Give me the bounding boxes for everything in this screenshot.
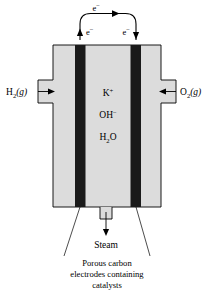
- diagram-canvas: e− e− e− H2(g): [0, 0, 214, 295]
- caption-leader-right: [136, 207, 150, 256]
- hydrogen-inlet-label: H2(g): [6, 87, 27, 99]
- electron-flow-right-arrow-icon: [133, 32, 139, 40]
- fuel-cell-diagram: e− e− e− H2(g): [0, 0, 214, 295]
- cell-body: [38, 45, 176, 207]
- cell-outline: [38, 45, 176, 207]
- caption-leader-left: [64, 207, 80, 256]
- electron-flow-top-arrow-icon: [112, 10, 120, 17]
- electron-label-top: e−: [93, 2, 101, 13]
- external-circuit: e− e− e−: [77, 2, 139, 40]
- electron-flow-left-arrow-icon: [77, 29, 83, 37]
- anode-electrode: [75, 45, 86, 207]
- caption-line-3: catalysts: [92, 280, 122, 290]
- oxygen-inlet-label: O2(g): [180, 87, 201, 99]
- steam-label: Steam: [94, 240, 118, 250]
- electron-label-right: e−: [123, 26, 131, 37]
- cathode-electrode: [131, 45, 142, 207]
- electron-label-left: e−: [86, 26, 94, 37]
- caption-line-1: Porous carbon: [82, 258, 132, 268]
- steam-arrow-icon: [103, 229, 109, 236]
- steam-outlet: Steam: [94, 207, 118, 250]
- caption-line-2: electrodes containing: [70, 269, 144, 279]
- figure-caption: Porous carbon electrodes containing cata…: [70, 258, 144, 290]
